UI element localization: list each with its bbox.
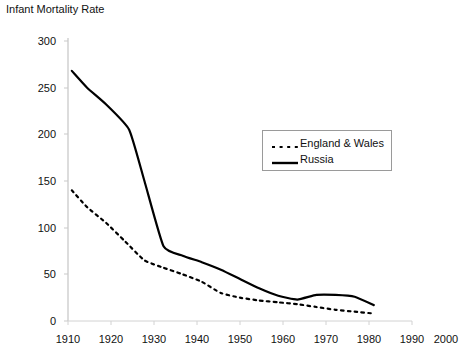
- legend-label-england-wales: England & Wales: [300, 137, 384, 149]
- infant-mortality-chart: Infant Mortality Rate: [0, 0, 462, 352]
- y-tick-label-50: 50: [22, 268, 56, 280]
- legend-swatch-dotted-line-icon: [270, 138, 300, 148]
- y-tick-label-150: 150: [22, 175, 56, 187]
- y-tick-marks: [64, 41, 68, 321]
- y-tick-label-250: 250: [22, 82, 56, 94]
- y-tick-label-200: 200: [22, 128, 56, 140]
- x-tick-label-1980: 1980: [349, 333, 389, 345]
- x-tick-label-2000: 2000: [426, 333, 462, 345]
- legend-entry-russia: Russia: [270, 152, 334, 166]
- legend-label-russia: Russia: [300, 153, 334, 165]
- chart-legend: England & Wales Russia: [262, 130, 392, 171]
- x-tick-label-1950: 1950: [220, 333, 260, 345]
- y-tick-label-100: 100: [22, 222, 56, 234]
- series-line-russia: [72, 71, 374, 305]
- legend-entry-england-wales: England & Wales: [270, 136, 384, 150]
- legend-swatch-solid-line-icon: [270, 154, 300, 164]
- x-tick-label-1910: 1910: [48, 333, 88, 345]
- plot-area: [0, 0, 462, 352]
- x-tick-marks: [68, 321, 412, 325]
- x-tick-label-1920: 1920: [91, 333, 131, 345]
- x-tick-label-1930: 1930: [134, 333, 174, 345]
- x-tick-label-1970: 1970: [306, 333, 346, 345]
- y-tick-label-300: 300: [22, 35, 56, 47]
- x-tick-label-1960: 1960: [263, 333, 303, 345]
- x-tick-label-1940: 1940: [177, 333, 217, 345]
- y-tick-label-0: 0: [22, 315, 56, 327]
